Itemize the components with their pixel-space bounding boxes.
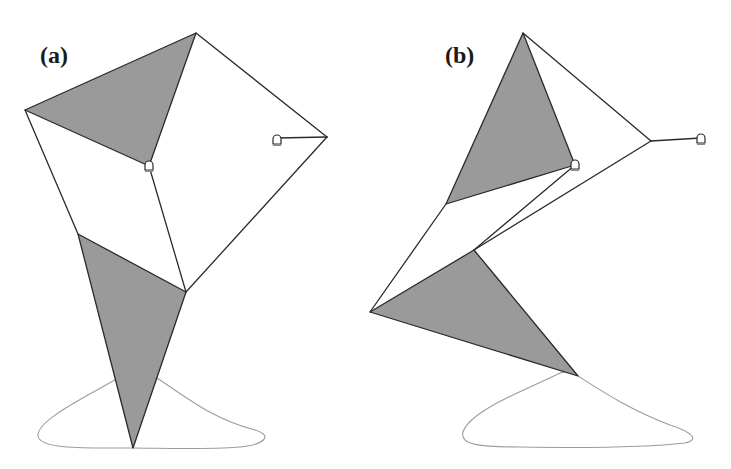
link-bar xyxy=(186,137,327,292)
pivot-anchor-icon xyxy=(145,161,153,172)
panel-a: (a) xyxy=(25,33,327,449)
link-bar xyxy=(651,138,701,141)
shaded-link-triangle xyxy=(370,250,578,376)
shaded-link-triangle xyxy=(78,234,186,448)
link-bar xyxy=(277,137,327,138)
link-bar xyxy=(196,33,327,137)
linkage-diagram-figure: (a) (b) xyxy=(0,0,731,469)
panel-b: (b) xyxy=(370,33,705,447)
ground-anchor-icon xyxy=(697,134,705,145)
trajectory-curve xyxy=(463,372,693,447)
link-bar xyxy=(149,166,186,292)
panel-label: (b) xyxy=(445,42,474,68)
pivot-anchor-icon xyxy=(571,160,579,171)
panel-label: (a) xyxy=(40,42,68,68)
ground-anchor-icon xyxy=(273,135,281,146)
